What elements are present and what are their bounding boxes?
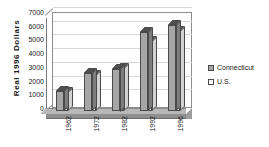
legend-entry[interactable]: Connecticut (208, 62, 266, 73)
legend-swatch-icon (208, 79, 214, 85)
bars-layer (46, 12, 198, 116)
legend-entry[interactable]: U.S. (208, 76, 266, 87)
bar-group (56, 15, 73, 111)
bar-front-face (168, 25, 176, 111)
bar-group (168, 15, 185, 111)
y-axis-tick-labels: 01000200030004000500060007000 (18, 9, 44, 116)
x-axis-tick-label: 1996 (176, 116, 185, 146)
bar[interactable] (168, 25, 176, 111)
bar[interactable] (84, 73, 92, 111)
bar-front-face (56, 91, 64, 111)
bar[interactable] (56, 91, 64, 111)
bar-side-face (176, 20, 181, 111)
x-axis-tick-label: 1982 (120, 116, 129, 146)
bar-side-face (148, 27, 153, 111)
chart-legend: ConnecticutU.S. (208, 62, 266, 90)
legend-swatch-icon (208, 65, 214, 71)
y-axis-tick-label: 2000 (18, 77, 44, 86)
y-axis-tick-label: 0 (18, 104, 44, 113)
bar[interactable] (140, 32, 148, 111)
bar-front-face (84, 73, 92, 111)
bar[interactable] (112, 69, 120, 112)
x-axis-tick-labels: 19621972198219921996 (46, 116, 198, 147)
y-axis-tick-label: 3000 (18, 63, 44, 72)
legend-label: Connecticut (217, 63, 254, 72)
bar-front-face (140, 32, 148, 111)
gridline (53, 7, 192, 8)
y-axis-tick-label: 6000 (18, 22, 44, 31)
bar-group (112, 15, 129, 111)
bar-chart-figure: Real 1996 Dollars 0100020003000400050006… (0, 0, 269, 147)
bar-side-face (120, 64, 125, 111)
bar-group (140, 15, 157, 111)
y-axis-tick-label: 1000 (18, 90, 44, 99)
bar-front-face (112, 69, 120, 112)
x-axis-tick-label: 1972 (92, 116, 101, 146)
bar-side-face (92, 68, 97, 111)
y-axis-tick-label: 7000 (18, 8, 44, 17)
bar-group (84, 15, 101, 111)
y-axis-tick-label: 5000 (18, 35, 44, 44)
legend-label: U.S. (217, 77, 231, 86)
y-axis-tick-label: 4000 (18, 49, 44, 58)
x-axis-tick-label: 1962 (64, 116, 73, 146)
x-axis-tick-label: 1992 (148, 116, 157, 146)
